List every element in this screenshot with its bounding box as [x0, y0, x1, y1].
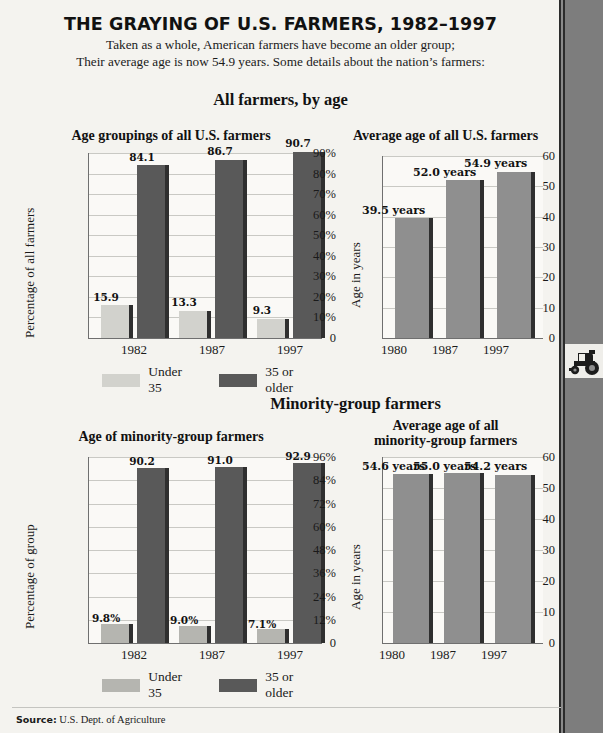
y-axis-label: Age in years [348, 544, 364, 610]
bar-label: 15.9 [86, 291, 126, 303]
bar-label: 54.9 years [464, 157, 526, 170]
x-tick: 1997 [464, 647, 524, 663]
bar-1982-under35 [101, 305, 133, 338]
source-text: U.S. Dept. of Agriculture [59, 714, 165, 725]
bar-1982-under35 [101, 624, 133, 643]
y-tick: 80% [260, 166, 336, 181]
bar-label: 9.3 [242, 304, 282, 316]
y-tick: 50 [514, 179, 555, 194]
y-tick: 20 [514, 270, 555, 285]
infographic-page: THE GRAYING OF U.S. FARMERS, 1982–1997 T… [0, 0, 603, 733]
bar-label: 91.0 [200, 454, 240, 466]
bar-label: 13.3 [164, 296, 204, 308]
bar-label: 84.1 [122, 151, 162, 163]
section-heading-all-farmers: All farmers, by age [6, 90, 555, 110]
content-inner: THE GRAYING OF U.S. FARMERS, 1982–1997 T… [6, 4, 555, 729]
bar-1987-avg [444, 473, 484, 644]
tractor-photo [565, 344, 603, 378]
legend: Under 35 35 or older [102, 669, 336, 701]
source-note: Source: U.S. Dept. of Agriculture [16, 714, 165, 725]
bar-1980-avg [395, 218, 433, 338]
y-tick: 10 [514, 300, 555, 315]
legend-swatch-under35 [102, 679, 140, 692]
x-tick: 1982 [102, 647, 166, 663]
bar-label: 54.2 years [464, 460, 524, 473]
y-tick: 40 [514, 209, 555, 224]
legend-label-older: 35 or older [265, 669, 322, 701]
y-tick: 50 [514, 481, 555, 496]
y-tick: 24% [260, 589, 336, 604]
bar-1982-older [137, 165, 169, 338]
chart-average-age-minority: Average age of all minority-group farmer… [336, 418, 555, 678]
bar-label: 7.1% [240, 618, 284, 630]
y-tick: 36% [260, 566, 336, 581]
y-tick: 30 [514, 240, 555, 255]
y-axis-label: Percentage of all farmers [22, 208, 38, 338]
y-tick: 20% [260, 289, 336, 304]
bar-label: 39.5 years [362, 204, 424, 217]
bar-1987-under35 [179, 626, 211, 643]
y-tick: 48% [260, 543, 336, 558]
bar-label: 90.7 [278, 137, 318, 149]
x-tick: 1987 [180, 647, 244, 663]
y-tick: 30% [260, 269, 336, 284]
chart-title: Age of minority-group farmers [6, 429, 336, 444]
bar-label: 92.9 [278, 450, 318, 462]
bar-label: 86.7 [200, 145, 240, 157]
y-tick: 60% [260, 207, 336, 222]
y-tick: 30 [514, 543, 555, 558]
legend-swatch-under35 [102, 374, 140, 387]
legend: Under 35 35 or older [102, 364, 336, 396]
legend-label-under35: Under 35 [148, 364, 197, 396]
y-tick: 10 [514, 605, 555, 620]
bar-1987-under35 [179, 311, 211, 338]
chart-title-line-1: Average age of all [336, 418, 555, 433]
bar-1980-avg [393, 474, 433, 643]
x-tick: 1987 [180, 342, 244, 358]
bar-label: 9.8% [84, 612, 128, 624]
deck-line-2: Their average age is now 54.9 years. Som… [6, 54, 555, 71]
legend-swatch-older [219, 374, 257, 387]
chart-title-line-2: minority-group farmers [336, 433, 555, 448]
legend-swatch-older [219, 679, 257, 692]
chart-age-minority: Age of minority-group farmers Percentage… [6, 429, 336, 689]
footer-divider [12, 707, 561, 708]
chart-average-age-all: Average age of all U.S. farmers Age in y… [336, 128, 555, 358]
y-axis-label: Age in years [348, 242, 364, 308]
x-tick: 1997 [258, 342, 322, 358]
legend-label-under35: Under 35 [148, 669, 197, 701]
bar-label: 90.2 [122, 455, 162, 467]
y-tick: 70% [260, 187, 336, 202]
x-tick: 1997 [465, 342, 527, 358]
legend-label-older: 35 or older [265, 364, 322, 396]
y-tick: 20 [514, 574, 555, 589]
y-tick: 72% [260, 496, 336, 511]
y-tick: 40 [514, 512, 555, 527]
bar-label: 9.0% [162, 614, 206, 626]
y-axis-label: Percentage of group [22, 524, 38, 629]
deck-line-1: Taken as a whole, American farmers have … [6, 37, 555, 54]
section-heading-minority: Minority-group farmers [156, 394, 555, 414]
y-tick: 50% [260, 228, 336, 243]
source-label: Source: [16, 714, 57, 725]
y-tick: 60% [260, 519, 336, 534]
chart-age-groupings-all: Age groupings of all U.S. farmers Percen… [6, 128, 336, 378]
y-tick: 84% [260, 473, 336, 488]
content-panel: THE GRAYING OF U.S. FARMERS, 1982–1997 T… [0, 0, 561, 733]
bar-1987-older [215, 467, 247, 643]
y-tick: 40% [260, 248, 336, 263]
chart-title: Average age of all U.S. farmers [336, 128, 555, 143]
page-title: THE GRAYING OF U.S. FARMERS, 1982–1997 [6, 14, 555, 34]
x-tick: 1997 [258, 647, 322, 663]
x-tick: 1982 [102, 342, 166, 358]
bar-1987-avg [446, 180, 484, 338]
